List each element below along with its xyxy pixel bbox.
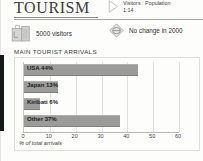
chart-bar-row: USA 44% xyxy=(24,64,179,76)
stat-row: 5000 visitors No change in 2000 xyxy=(9,22,203,46)
stat-visitors-label: 5000 visitors xyxy=(36,30,72,37)
x-axis-label: % of total arrivals xyxy=(19,140,62,146)
stat-change-label: No change in 2000 xyxy=(129,27,183,34)
gridline xyxy=(179,62,180,132)
x-tick-40: 40 xyxy=(123,133,129,139)
stat-change: No change in 2000 xyxy=(109,23,183,38)
ratio-value: 1:14 xyxy=(123,7,171,14)
x-tick-60: 60 xyxy=(175,133,181,139)
chart-bar-row: Japan 13% xyxy=(24,81,179,93)
suitcase-icon xyxy=(11,23,31,44)
tourism-infographic-panel: TOURISM Visitors : Population 1:14 5 xyxy=(0,0,203,161)
panel-header: TOURISM Visitors : Population 1:14 xyxy=(9,0,203,20)
x-tick-20: 20 xyxy=(72,133,78,139)
header-divider xyxy=(14,19,203,20)
triangle-right-icon xyxy=(108,0,119,13)
x-tick-30: 30 xyxy=(97,133,103,139)
x-tick-50: 50 xyxy=(149,133,155,139)
x-tick-0: 0 xyxy=(21,133,24,139)
visitors-population-ratio: Visitors : Population 1:14 xyxy=(108,0,171,14)
chart-bar-label: Japan 13% xyxy=(27,82,58,88)
panel-left-accent-bar xyxy=(0,55,4,131)
no-change-diamond-icon xyxy=(109,23,124,38)
chart-bar-label: Other 37% xyxy=(27,116,57,122)
page-title: TOURISM xyxy=(14,0,90,17)
chart-bar-row: Kiribati 6% xyxy=(24,98,179,110)
title-underline xyxy=(14,17,98,18)
chart-plot-area: USA 44%Japan 13%Kiribati 6%Other 37% xyxy=(23,62,179,133)
ratio-label: Visitors : Population xyxy=(123,0,171,6)
chart-bar-row: Other 37% xyxy=(24,115,179,127)
ratio-text-group: Visitors : Population 1:14 xyxy=(123,0,171,14)
chart-bar-label: USA 44% xyxy=(27,65,53,71)
chart-bar-label: Kiribati 6% xyxy=(27,99,58,105)
stat-visitors: 5000 visitors xyxy=(11,23,72,44)
chart-title: MAIN TOURIST ARRIVALS xyxy=(14,48,97,55)
x-tick-10: 10 xyxy=(46,133,52,139)
